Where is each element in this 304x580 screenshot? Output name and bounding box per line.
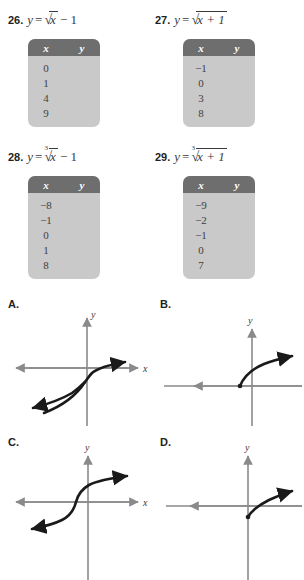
table-row: 0: [28, 227, 100, 242]
table-29-body: −9 −2 −1 0 7: [183, 193, 255, 279]
choice-b[interactable]: B. y: [152, 296, 304, 436]
table-row: −9: [183, 197, 255, 212]
problem-28-equals: =: [33, 149, 44, 164]
table-row: −1: [183, 60, 255, 75]
problem-29-trailing: [227, 149, 231, 164]
table-row: 7: [183, 257, 255, 272]
problem-29-number: 29.: [155, 151, 170, 163]
problem-28-equation: y=3√x− 1: [27, 148, 79, 165]
table-row: 1: [28, 242, 100, 257]
table-29-header-y: y: [219, 179, 255, 191]
radical-26: √x: [44, 11, 57, 28]
x-axis-label: x: [142, 363, 148, 374]
choice-a-graph: y x: [0, 296, 152, 426]
table-row: −8: [28, 197, 100, 212]
cell-x: 4: [28, 92, 64, 104]
cell-x: 0: [28, 62, 64, 74]
cell-x: −1: [183, 229, 219, 241]
radical-29: 3√x + 1: [191, 148, 226, 165]
problem-26-equation: y=√x− 1: [27, 11, 79, 28]
choice-d[interactable]: D. y: [152, 434, 304, 580]
curve: [240, 356, 292, 386]
choice-b-graph: y: [152, 296, 304, 426]
curve-right: [76, 476, 127, 502]
problem-26-number: 26.: [8, 14, 23, 26]
table-row: 9: [28, 105, 100, 120]
table-row: 0: [183, 75, 255, 90]
table-row: −1: [183, 227, 255, 242]
cell-x: 8: [28, 259, 64, 271]
x-axis-label: x: [142, 497, 148, 508]
y-axis-label: y: [90, 309, 96, 320]
cell-x: 8: [183, 107, 219, 119]
table-row: 0: [183, 242, 255, 257]
cell-x: 9: [28, 107, 64, 119]
curve-left: [32, 502, 76, 529]
y-axis-label: y: [244, 442, 250, 453]
problem-27-equation: y=√x + 1: [174, 11, 230, 28]
problem-26-radicand: x: [49, 11, 58, 28]
problem-28-radicand: x: [49, 148, 58, 165]
table-row: 8: [183, 105, 255, 120]
table-28-body: −8 −1 0 1 8: [28, 193, 100, 279]
problem-28-trailing: − 1: [58, 149, 79, 164]
problem-29: 29.y=3√x + 1: [155, 147, 304, 165]
table-row: 4: [28, 90, 100, 105]
problem-28: 28.y=3√x− 1: [8, 147, 160, 165]
table-26-header-y: y: [64, 42, 100, 54]
worksheet-page: 26.y=√x− 1 x y 0 1 4 9: [0, 0, 304, 580]
choice-a[interactable]: A. y x: [0, 296, 152, 436]
table-28-header: x y: [28, 176, 100, 193]
cell-x: −1: [28, 214, 64, 226]
problem-28-number: 28.: [8, 151, 23, 163]
cell-x: 0: [183, 244, 219, 256]
cell-x: 7: [183, 259, 219, 271]
curve-left: [33, 382, 85, 408]
problem-26-trailing: − 1: [58, 12, 79, 27]
problem-26-equals: =: [33, 12, 44, 27]
cell-x: 1: [28, 77, 64, 89]
problem-29-equation: y=3√x + 1: [174, 148, 230, 165]
table-27-header: x y: [183, 39, 255, 56]
table-row: −2: [183, 212, 255, 227]
table-27-header-y: y: [219, 42, 255, 54]
table-26: x y 0 1 4 9: [28, 39, 100, 127]
table-26-header-x: x: [28, 42, 64, 54]
table-28-header-x: x: [28, 179, 64, 191]
table-27-header-x: x: [183, 42, 219, 54]
cell-x: 0: [183, 77, 219, 89]
problem-27-number: 27.: [155, 14, 170, 26]
curve-right: [44, 362, 125, 413]
cell-x: −8: [28, 199, 64, 211]
table-row: 0: [28, 60, 100, 75]
table-27: x y −1 0 3 8: [183, 39, 255, 127]
table-29-header-x: x: [183, 179, 219, 191]
radical-28: 3√x: [44, 148, 57, 165]
curve-endpoint: [238, 384, 243, 389]
y-axis-label: y: [84, 442, 90, 453]
table-29-header: x y: [183, 176, 255, 193]
cell-x: 3: [183, 92, 219, 104]
cell-x: 1: [28, 244, 64, 256]
cell-x: −2: [183, 214, 219, 226]
table-row: −1: [28, 212, 100, 227]
choice-c[interactable]: C. y x: [0, 434, 152, 580]
table-28: x y −8 −1 0 1 8: [28, 176, 100, 279]
table-29: x y −9 −2 −1 0 7: [183, 176, 255, 279]
curve: [248, 491, 292, 517]
choice-c-graph: y x: [0, 434, 152, 580]
problem-26: 26.y=√x− 1: [8, 10, 160, 28]
problem-29-equals: =: [180, 149, 191, 164]
y-axis-label: y: [247, 315, 253, 326]
problem-29-radicand: x + 1: [196, 148, 227, 165]
problem-27-trailing: [227, 12, 231, 27]
radical-27: √x + 1: [191, 11, 226, 28]
table-26-body: 0 1 4 9: [28, 56, 100, 127]
problem-27: 27.y=√x + 1: [155, 10, 304, 28]
cell-x: −1: [183, 62, 219, 74]
table-row: 1: [28, 75, 100, 90]
table-26-header: x y: [28, 39, 100, 56]
table-27-body: −1 0 3 8: [183, 56, 255, 127]
cell-x: 0: [28, 229, 64, 241]
problem-27-equals: =: [180, 12, 191, 27]
